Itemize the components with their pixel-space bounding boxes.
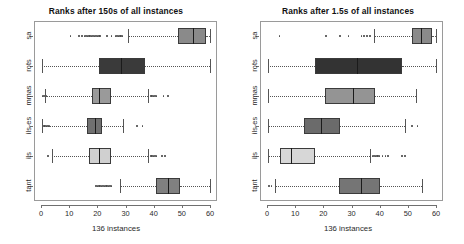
box-sa bbox=[178, 28, 206, 44]
box-mmas bbox=[325, 88, 376, 104]
outlier-point bbox=[167, 95, 169, 97]
outlier-point bbox=[164, 155, 166, 157]
x-axis-label: 136 instances bbox=[0, 224, 232, 233]
outlier-point bbox=[339, 35, 341, 37]
whisker-low bbox=[268, 96, 324, 97]
median-line bbox=[353, 88, 354, 104]
whisker-low bbox=[268, 126, 303, 127]
box-sa bbox=[412, 28, 432, 44]
x-tick-label: 20 bbox=[87, 209, 107, 218]
plot-frame bbox=[260, 21, 443, 201]
whisker-high bbox=[145, 66, 210, 67]
whisker-cap-high bbox=[416, 89, 417, 102]
whisker-high bbox=[111, 96, 148, 97]
panel-title: Ranks after 1.5s of all instances bbox=[232, 6, 464, 16]
outlier-point bbox=[47, 155, 49, 157]
outlier-point bbox=[136, 125, 138, 127]
whisker-low bbox=[42, 66, 98, 67]
whisker-cap-low bbox=[128, 29, 129, 42]
x-tick bbox=[210, 205, 211, 208]
panel-left: Ranks after 150s of all instances 136 in… bbox=[0, 0, 232, 244]
median-line bbox=[121, 58, 122, 74]
x-tick-label: 0 bbox=[257, 209, 277, 218]
outlier-point bbox=[111, 185, 113, 187]
median-line bbox=[321, 118, 322, 134]
whisker-high bbox=[380, 186, 422, 187]
whisker-cap-low bbox=[275, 179, 276, 192]
outlier-point bbox=[161, 155, 163, 157]
outlier-point bbox=[106, 35, 108, 37]
panel-right: Ranks after 1.5s of all instances 136 in… bbox=[232, 0, 464, 244]
y-tick-label-sa: sa bbox=[250, 16, 259, 56]
panel-title: Ranks after 150s of all instances bbox=[0, 6, 232, 16]
x-axis-label: 136 instances bbox=[232, 224, 464, 233]
whisker-cap-high bbox=[210, 29, 211, 42]
outlier-point bbox=[385, 155, 387, 157]
x-tick-label: 30 bbox=[116, 209, 136, 218]
x-tick bbox=[436, 205, 437, 208]
median-line bbox=[168, 178, 169, 194]
whisker-high bbox=[111, 156, 148, 157]
x-axis-line bbox=[267, 205, 436, 206]
whisker-high bbox=[102, 126, 123, 127]
x-tick-label: 40 bbox=[144, 209, 164, 218]
whisker-cap-low bbox=[268, 59, 269, 72]
box-ils bbox=[280, 148, 315, 164]
whisker-low bbox=[45, 96, 91, 97]
whisker-low bbox=[374, 36, 412, 37]
whisker-high bbox=[340, 126, 405, 127]
whisker-cap-high bbox=[148, 89, 149, 102]
outlier-point bbox=[411, 125, 413, 127]
whisker-cap-low bbox=[42, 59, 43, 72]
median-line bbox=[95, 118, 96, 134]
outlier-point bbox=[111, 35, 113, 37]
whisker-high bbox=[315, 156, 370, 157]
box-ils bbox=[89, 148, 112, 164]
outlier-point bbox=[325, 35, 327, 37]
whisker-low bbox=[268, 156, 279, 157]
whisker-cap-high bbox=[405, 119, 406, 132]
median-line bbox=[99, 148, 100, 164]
whisker-low bbox=[128, 36, 177, 37]
x-tick-label: 60 bbox=[426, 209, 446, 218]
whisker-cap-high bbox=[210, 59, 211, 72]
outlier-point bbox=[268, 185, 270, 187]
x-tick-label: 10 bbox=[59, 209, 79, 218]
outlier-point bbox=[99, 35, 101, 37]
x-tick-label: 0 bbox=[31, 209, 51, 218]
median-line bbox=[421, 28, 422, 44]
whisker-cap-high bbox=[148, 149, 149, 162]
whisker-cap-low bbox=[52, 149, 53, 162]
whisker-low bbox=[52, 156, 89, 157]
whisker-low bbox=[268, 66, 314, 67]
outlier-point bbox=[43, 95, 45, 97]
outlier-point bbox=[142, 125, 144, 127]
whisker-cap-low bbox=[268, 89, 269, 102]
whisker-cap-high bbox=[123, 119, 124, 132]
whisker-cap-high bbox=[436, 59, 437, 72]
whisker-high bbox=[180, 186, 210, 187]
whisker-cap-low bbox=[120, 179, 121, 192]
whisker-low bbox=[275, 186, 338, 187]
x-tick-label: 50 bbox=[172, 209, 192, 218]
outlier-point bbox=[78, 35, 80, 37]
outlier-point bbox=[363, 35, 365, 37]
x-tick-label: 60 bbox=[200, 209, 220, 218]
whisker-cap-high bbox=[422, 179, 423, 192]
x-tick-label: 20 bbox=[313, 209, 333, 218]
whisker-cap-low bbox=[374, 29, 375, 42]
whisker-cap-low bbox=[268, 119, 269, 132]
x-tick-label: 50 bbox=[398, 209, 418, 218]
plot-frame bbox=[34, 21, 217, 201]
median-line bbox=[193, 28, 194, 44]
outlier-point bbox=[81, 35, 83, 37]
outlier-point bbox=[361, 35, 363, 37]
median-line bbox=[357, 58, 358, 74]
outlier-point bbox=[49, 125, 51, 127]
whisker-low bbox=[120, 186, 157, 187]
outlier-point bbox=[387, 155, 389, 157]
median-line bbox=[99, 88, 100, 104]
box-tant bbox=[339, 178, 380, 194]
box-mmas bbox=[92, 88, 112, 104]
whisker-high bbox=[402, 66, 436, 67]
